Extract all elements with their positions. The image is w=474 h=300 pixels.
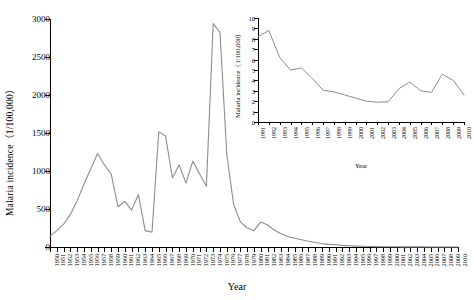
main-x-tick-mark	[417, 247, 418, 252]
inset-x-tick-mark	[291, 122, 292, 125]
inset-x-tick-mark	[334, 122, 335, 125]
inset-x-tick-label: 2008	[445, 127, 451, 139]
main-x-tick-label: 1973	[209, 254, 216, 266]
inset-x-tick-mark	[453, 122, 454, 125]
inset-x-tick-label: 2007	[434, 127, 440, 139]
main-x-tick-mark	[302, 247, 303, 252]
main-x-tick-label: 1969	[182, 254, 189, 266]
inset-x-tick-label: 1997	[325, 127, 331, 139]
inset-x-tick-mark	[269, 122, 270, 125]
inset-x-tick-mark	[431, 122, 432, 125]
inset-x-tick-mark	[399, 122, 400, 125]
main-x-tick-mark	[458, 247, 459, 252]
inset-x-tick-label: 2003	[391, 127, 397, 139]
inset-x-tick-label: 2009	[456, 127, 462, 139]
main-x-tick-label: 1958	[107, 254, 114, 266]
main-x-tick-mark	[376, 247, 377, 252]
main-x-tick-label: 1984	[284, 254, 291, 266]
inset-x-tick-mark	[377, 122, 378, 125]
main-x-tick-mark	[308, 247, 309, 252]
main-x-tick-mark	[281, 247, 282, 252]
main-x-tick-mark	[363, 247, 364, 252]
main-x-tick-label: 1964	[148, 254, 155, 266]
inset-x-tick-mark	[312, 122, 313, 125]
main-x-tick-label: 1978	[243, 254, 250, 266]
inset-x-tick-label: 2006	[423, 127, 429, 139]
inset-x-tick-mark	[356, 122, 357, 125]
main-x-tick-mark	[64, 247, 65, 252]
main-x-tick-label: 1963	[141, 254, 148, 266]
inset-x-axis-line	[258, 122, 464, 123]
main-x-tick-mark	[234, 247, 235, 252]
main-x-tick-mark	[206, 247, 207, 252]
main-x-tick-mark	[390, 247, 391, 252]
main-x-tick-label: 2009	[454, 254, 461, 266]
main-x-axis-label: Year	[0, 281, 474, 292]
main-x-tick-mark	[172, 247, 173, 252]
main-x-tick-mark	[91, 247, 92, 252]
main-x-tick-mark	[349, 247, 350, 252]
main-x-tick-mark	[431, 247, 432, 252]
inset-x-tick-mark	[258, 122, 259, 125]
main-x-tick-mark	[179, 247, 180, 252]
inset-plot-area	[258, 18, 464, 122]
main-x-tick-mark	[227, 247, 228, 252]
main-x-tick-label: 1983	[277, 254, 284, 266]
inset-x-axis-label: Year	[258, 162, 464, 169]
main-x-tick-mark	[152, 247, 153, 252]
main-x-tick-label: 1998	[379, 254, 386, 266]
main-x-tick-mark	[247, 247, 248, 252]
main-x-tick-mark	[98, 247, 99, 252]
inset-x-tick-label: 1994	[293, 127, 299, 139]
inset-x-tick-label: 1995	[304, 127, 310, 139]
main-x-tick-mark	[111, 247, 112, 252]
main-x-tick-mark	[213, 247, 214, 252]
main-x-tick-label: 1979	[250, 254, 257, 266]
main-x-tick-label: 1954	[80, 254, 87, 266]
main-x-tick-mark	[404, 247, 405, 252]
main-x-tick-mark	[145, 247, 146, 252]
main-x-tick-mark	[424, 247, 425, 252]
main-x-tick-mark	[370, 247, 371, 252]
main-x-tick-mark	[410, 247, 411, 252]
main-x-tick-mark	[356, 247, 357, 252]
main-x-tick-mark	[186, 247, 187, 252]
inset-x-tick-mark	[421, 122, 422, 125]
main-x-tick-label: 2003	[413, 254, 420, 266]
main-x-tick-label: 1989	[318, 254, 325, 266]
main-x-tick-mark	[295, 247, 296, 252]
inset-y-tick-labels: 109876543210	[238, 12, 255, 147]
main-x-tick-mark	[315, 247, 316, 252]
inset-chart: Malaria incidence（1/100,000） 10987654321…	[232, 12, 472, 147]
inset-x-tick-mark	[464, 122, 465, 125]
inset-x-tick-label: 2002	[380, 127, 386, 139]
inset-series-line	[258, 18, 464, 122]
main-x-tick-mark	[220, 247, 221, 252]
main-x-tick-label: 1953	[73, 254, 80, 266]
main-x-tick-mark	[132, 247, 133, 252]
main-x-tick-label: 1959	[114, 254, 121, 266]
inset-x-tick-label: 2000	[358, 127, 364, 139]
main-x-tick-mark	[57, 247, 58, 252]
main-x-tick-label: 1988	[311, 254, 318, 266]
main-x-tick-mark	[77, 247, 78, 252]
main-x-tick-mark	[261, 247, 262, 252]
main-y-tick-labels: 300025002000150010005000	[14, 0, 50, 300]
main-x-tick-mark	[322, 247, 323, 252]
inset-x-tick-label: 2010	[466, 127, 472, 139]
main-x-tick-mark	[329, 247, 330, 252]
main-x-tick-mark	[342, 247, 343, 252]
main-x-tick-label: 2008	[447, 254, 454, 266]
main-x-tick-mark	[118, 247, 119, 252]
inset-x-tick-mark	[301, 122, 302, 125]
main-x-tick-mark	[451, 247, 452, 252]
main-x-tick-mark	[166, 247, 167, 252]
inset-x-tick-label: 2001	[369, 127, 375, 139]
inset-x-tick-label: 1999	[347, 127, 353, 139]
main-x-tick-label: 1994	[352, 254, 359, 266]
inset-x-tick-mark	[366, 122, 367, 125]
inset-x-tick-mark	[323, 122, 324, 125]
main-x-tick-mark	[336, 247, 337, 252]
inset-x-tick-mark	[410, 122, 411, 125]
main-x-tick-mark	[438, 247, 439, 252]
